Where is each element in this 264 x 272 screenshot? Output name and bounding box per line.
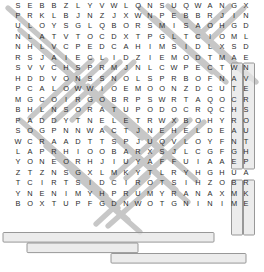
grid-cell[interactable]: R [120, 94, 132, 104]
grid-cell[interactable]: O [192, 73, 204, 83]
grid-cell[interactable]: E [180, 126, 192, 136]
grid-cell[interactable]: C [108, 126, 120, 136]
grid-cell[interactable]: M [144, 188, 156, 198]
grid-cell[interactable]: U [60, 199, 72, 209]
grid-cell[interactable]: D [48, 115, 60, 125]
grid-cell[interactable]: X [120, 31, 132, 41]
grid-cell[interactable]: N [12, 42, 24, 52]
grid-cell[interactable]: A [120, 146, 132, 156]
grid-cell[interactable]: I [60, 94, 72, 104]
grid-cell[interactable]: H [132, 42, 144, 52]
grid-cell[interactable]: J [96, 157, 108, 167]
grid-cell[interactable]: O [72, 105, 84, 115]
grid-cell[interactable]: O [192, 136, 204, 146]
grid-cell[interactable]: G [228, 0, 240, 10]
grid-cell[interactable]: O [120, 21, 132, 31]
grid-cell[interactable]: G [84, 94, 96, 104]
grid-cell[interactable]: B [108, 146, 120, 156]
grid-cell[interactable]: M [72, 188, 84, 198]
grid-cell[interactable]: E [192, 63, 204, 73]
grid-cell[interactable]: D [24, 73, 36, 83]
grid-cell[interactable]: M [156, 42, 168, 52]
grid-cell[interactable]: M [216, 52, 228, 62]
grid-cell[interactable]: N [48, 167, 60, 177]
grid-cell[interactable]: U [120, 105, 132, 115]
grid-cell[interactable]: D [108, 199, 120, 209]
grid-cell[interactable]: N [108, 73, 120, 83]
grid-cell[interactable]: S [60, 167, 72, 177]
grid-cell[interactable]: J [36, 52, 48, 62]
grid-cell[interactable]: E [72, 52, 84, 62]
grid-cell[interactable]: M [168, 52, 180, 62]
grid-cell[interactable]: R [24, 10, 36, 20]
grid-cell[interactable]: E [96, 115, 108, 125]
grid-cell[interactable]: S [144, 94, 156, 104]
grid-cell[interactable]: T [72, 115, 84, 125]
grid-cell[interactable]: E [228, 157, 240, 167]
grid-cell[interactable]: T [96, 136, 108, 146]
grid-cell[interactable]: C [108, 178, 120, 188]
grid-cell[interactable]: O [84, 31, 96, 41]
grid-cell[interactable]: X [216, 188, 228, 198]
grid-cell[interactable]: I [60, 52, 72, 62]
grid-cell[interactable]: H [192, 167, 204, 177]
grid-cell[interactable]: N [240, 10, 252, 20]
grid-cell[interactable]: U [228, 167, 240, 177]
grid-cell[interactable]: D [96, 42, 108, 52]
grid-cell[interactable]: H [84, 157, 96, 167]
grid-cell[interactable]: N [180, 199, 192, 209]
grid-cell[interactable]: A [204, 157, 216, 167]
grid-cell[interactable]: C [48, 63, 60, 73]
word-search-puzzle[interactable]: SEBBZLYVWLQNSUQWANGXPRKLBJNZJXWNPEBBRJIN… [0, 0, 264, 272]
grid-cell[interactable]: M [228, 31, 240, 41]
grid-cell[interactable]: O [60, 157, 72, 167]
grid-cell[interactable]: U [144, 136, 156, 146]
grid-cell[interactable]: I [168, 21, 180, 31]
grid-cell[interactable]: I [72, 146, 84, 156]
grid-cell[interactable]: W [12, 136, 24, 146]
grid-cell[interactable]: I [228, 10, 240, 20]
grid-cell[interactable]: O [24, 157, 36, 167]
grid-cell[interactable]: E [240, 52, 252, 62]
grid-cell[interactable]: A [24, 115, 36, 125]
grid-cell[interactable]: D [72, 136, 84, 146]
grid-cell[interactable]: H [12, 73, 24, 83]
grid-cell[interactable]: Z [12, 167, 24, 177]
grid-cell[interactable]: W [108, 0, 120, 10]
grid-cell[interactable]: O [180, 52, 192, 62]
grid-cell[interactable]: J [72, 10, 84, 20]
grid-cell[interactable]: Q [132, 0, 144, 10]
grid-cell[interactable]: E [36, 188, 48, 198]
grid-cell[interactable]: A [36, 31, 48, 41]
grid-cell[interactable]: W [168, 63, 180, 73]
grid-cell[interactable]: I [36, 178, 48, 188]
grid-cell[interactable]: H [168, 126, 180, 136]
grid-cell[interactable]: A [60, 136, 72, 146]
grid-cell[interactable]: A [48, 136, 60, 146]
grid-cell[interactable]: O [144, 105, 156, 115]
grid-cell[interactable]: O [60, 84, 72, 94]
grid-cell[interactable]: C [216, 105, 228, 115]
grid-cell[interactable]: D [120, 52, 132, 62]
grid-cell[interactable]: R [144, 115, 156, 125]
grid-cell[interactable]: O [24, 126, 36, 136]
grid-cell[interactable]: J [132, 126, 144, 136]
letter-grid[interactable]: SEBBZLYVWLQNSUQWANGXPRKLBJNZJXWNPEBBRJIN… [0, 0, 264, 272]
grid-cell[interactable]: T [84, 136, 96, 146]
grid-cell[interactable]: U [216, 84, 228, 94]
grid-cell[interactable]: Y [12, 188, 24, 198]
grid-cell[interactable]: N [228, 136, 240, 146]
grid-cell[interactable]: J [216, 10, 228, 20]
grid-cell[interactable]: H [24, 105, 36, 115]
grid-cell[interactable]: S [144, 21, 156, 31]
grid-cell[interactable]: S [60, 21, 72, 31]
grid-cell[interactable]: H [60, 146, 72, 156]
grid-cell[interactable]: L [192, 126, 204, 136]
grid-cell[interactable]: M [228, 188, 240, 198]
grid-cell[interactable]: A [144, 157, 156, 167]
grid-cell[interactable]: L [72, 0, 84, 10]
grid-cell[interactable]: I [144, 42, 156, 52]
grid-cell[interactable]: Q [156, 136, 168, 146]
grid-cell[interactable]: C [204, 84, 216, 94]
grid-cell[interactable]: C [24, 84, 36, 94]
